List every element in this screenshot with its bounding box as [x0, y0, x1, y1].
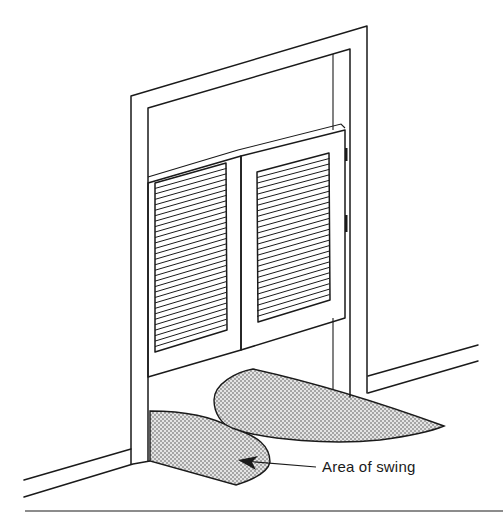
area-of-swing-label: Area of swing — [322, 458, 415, 475]
left-louvered-door — [148, 150, 241, 377]
swing-door-diagram — [0, 0, 503, 521]
swing-area-back — [214, 369, 444, 442]
right-louvered-door — [238, 124, 345, 350]
baseboard-right — [368, 345, 478, 393]
